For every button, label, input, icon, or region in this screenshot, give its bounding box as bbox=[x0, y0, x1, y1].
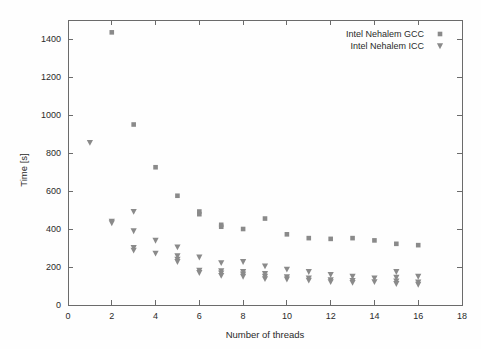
x-tick-label: 14 bbox=[369, 311, 379, 321]
data-point bbox=[131, 122, 136, 127]
y-axis-ticks: 0200400600800100012001400 bbox=[41, 34, 462, 310]
data-point bbox=[284, 267, 290, 273]
y-axis-label: Time [s] bbox=[18, 153, 29, 186]
data-point bbox=[174, 259, 180, 265]
data-point bbox=[152, 251, 158, 257]
x-tick-label: 0 bbox=[65, 311, 70, 321]
x-tick-label: 12 bbox=[326, 311, 336, 321]
data-point bbox=[350, 236, 355, 241]
data-point bbox=[152, 238, 158, 244]
data-point bbox=[196, 254, 202, 260]
legend-label: Intel Nehalem ICC bbox=[350, 41, 424, 51]
data-point bbox=[328, 279, 334, 285]
data-point bbox=[393, 281, 399, 287]
data-point bbox=[284, 277, 290, 283]
x-tick-label: 2 bbox=[109, 311, 114, 321]
series-icc bbox=[87, 140, 422, 288]
legend-marker bbox=[438, 32, 443, 37]
y-tick-label: 1200 bbox=[41, 72, 61, 82]
data-point bbox=[262, 276, 268, 282]
y-tick-label: 1400 bbox=[41, 34, 61, 44]
y-tick-label: 800 bbox=[46, 148, 61, 158]
data-point bbox=[131, 248, 137, 254]
chart-legend: Intel Nehalem GCCIntel Nehalem ICC bbox=[346, 29, 443, 51]
data-point bbox=[218, 260, 224, 266]
data-point bbox=[306, 269, 312, 275]
data-point bbox=[393, 269, 399, 275]
plot-canvas: 0200400600800100012001400 02468101214161… bbox=[0, 0, 481, 349]
series-gcc bbox=[109, 30, 420, 247]
data-point bbox=[219, 224, 224, 229]
x-tick-label: 4 bbox=[153, 311, 158, 321]
legend-marker bbox=[437, 43, 443, 49]
x-tick-label: 8 bbox=[241, 311, 246, 321]
data-point bbox=[241, 227, 246, 232]
legend-label: Intel Nehalem GCC bbox=[346, 29, 425, 39]
data-point bbox=[131, 209, 137, 215]
data-point bbox=[197, 212, 202, 217]
data-points-layer bbox=[87, 30, 422, 288]
data-point bbox=[328, 237, 333, 242]
data-point bbox=[109, 30, 114, 35]
data-point bbox=[285, 232, 290, 237]
y-tick-label: 600 bbox=[46, 186, 61, 196]
data-point bbox=[218, 273, 224, 279]
data-point bbox=[416, 243, 421, 248]
data-point bbox=[131, 228, 137, 234]
data-point bbox=[372, 238, 377, 243]
y-tick-label: 0 bbox=[56, 300, 61, 310]
data-point bbox=[262, 263, 268, 269]
data-point bbox=[87, 140, 93, 146]
y-tick-label: 400 bbox=[46, 224, 61, 234]
x-tick-label: 18 bbox=[457, 311, 467, 321]
data-point bbox=[153, 165, 158, 170]
x-tick-label: 6 bbox=[197, 311, 202, 321]
data-point bbox=[240, 274, 246, 280]
scatter-plot-figure: 0200400600800100012001400 02468101214161… bbox=[0, 0, 481, 349]
data-point bbox=[349, 280, 355, 286]
y-tick-label: 200 bbox=[46, 262, 61, 272]
data-point bbox=[109, 220, 115, 226]
data-point bbox=[196, 270, 202, 276]
plot-border bbox=[68, 20, 462, 305]
x-tick-label: 16 bbox=[413, 311, 423, 321]
y-tick-label: 1000 bbox=[41, 110, 61, 120]
data-point bbox=[306, 278, 312, 284]
data-point bbox=[371, 279, 377, 285]
data-point bbox=[174, 244, 180, 250]
data-point bbox=[240, 259, 246, 265]
x-tick-label: 10 bbox=[282, 311, 292, 321]
data-point bbox=[415, 274, 421, 280]
data-point bbox=[328, 272, 334, 278]
x-axis-label: Number of threads bbox=[226, 329, 305, 340]
data-point bbox=[306, 236, 311, 241]
data-point bbox=[263, 216, 268, 221]
plot-frame bbox=[68, 20, 462, 305]
data-point bbox=[394, 242, 399, 247]
data-point bbox=[175, 193, 180, 198]
data-point bbox=[415, 282, 421, 288]
